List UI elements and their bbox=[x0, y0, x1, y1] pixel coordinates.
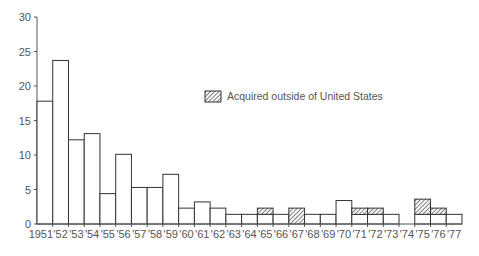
legend-label: Acquired outside of United States bbox=[227, 90, 383, 102]
y-tick-label: 15 bbox=[19, 115, 31, 127]
bars-group bbox=[37, 60, 462, 224]
bar-1963 bbox=[226, 214, 242, 224]
bar-us-segment bbox=[257, 214, 273, 224]
bar-1968 bbox=[305, 214, 321, 224]
bar-outside-us-segment bbox=[257, 208, 273, 214]
y-tick-label: 20 bbox=[19, 80, 31, 92]
bar-us-segment bbox=[320, 214, 336, 224]
x-tick-label: '54 bbox=[85, 228, 99, 240]
x-tick-label: '62 bbox=[211, 228, 225, 240]
bar-1964 bbox=[242, 214, 258, 224]
bar-1972 bbox=[368, 208, 384, 224]
bar-1960 bbox=[179, 208, 195, 224]
x-tick-label: '60 bbox=[179, 228, 193, 240]
bar-1956 bbox=[116, 154, 132, 224]
x-tick-label: '53 bbox=[69, 228, 83, 240]
bar-1957 bbox=[131, 187, 147, 224]
bar-1954 bbox=[84, 134, 100, 224]
bar-1969 bbox=[320, 214, 336, 224]
bar-1953 bbox=[68, 140, 84, 224]
bar-outside-us-segment bbox=[415, 199, 431, 214]
bar-us-segment bbox=[53, 60, 69, 224]
bar-1967 bbox=[289, 208, 305, 224]
x-axis: 1951'52'53'54'55'56'57'58'59'60'61'62'63… bbox=[29, 224, 462, 240]
x-tick-label: '52 bbox=[53, 228, 67, 240]
bar-us-segment bbox=[352, 214, 368, 224]
bar-1965 bbox=[257, 208, 273, 224]
bar-us-segment bbox=[68, 140, 84, 224]
legend-hatch-swatch-icon bbox=[205, 91, 221, 102]
y-tick-label: 5 bbox=[25, 184, 31, 196]
bar-us-segment bbox=[336, 201, 352, 224]
bar-us-segment bbox=[179, 208, 195, 224]
bar-1977 bbox=[446, 214, 462, 224]
bar-1970 bbox=[336, 201, 352, 224]
bar-1955 bbox=[100, 194, 116, 224]
x-tick-label: '69 bbox=[321, 228, 335, 240]
x-tick-label: '61 bbox=[195, 228, 209, 240]
x-tick-label: '58 bbox=[148, 228, 162, 240]
bar-1961 bbox=[194, 202, 210, 224]
bar-us-segment bbox=[383, 214, 399, 224]
bar-us-segment bbox=[226, 214, 242, 224]
x-tick-label: '67 bbox=[290, 228, 304, 240]
legend: Acquired outside of United States bbox=[205, 90, 383, 102]
x-tick-label: '57 bbox=[132, 228, 146, 240]
x-tick-label: '68 bbox=[305, 228, 319, 240]
bar-us-segment bbox=[131, 187, 147, 224]
bar-us-segment bbox=[446, 214, 462, 224]
x-tick-label: '59 bbox=[164, 228, 178, 240]
bar-us-segment bbox=[242, 214, 258, 224]
x-tick-label: '77 bbox=[447, 228, 461, 240]
bar-us-segment bbox=[415, 214, 431, 224]
bar-us-segment bbox=[431, 214, 447, 224]
bar-us-segment bbox=[305, 214, 321, 224]
bar-us-segment bbox=[210, 208, 226, 224]
x-tick-label: '66 bbox=[274, 228, 288, 240]
x-tick-label: '76 bbox=[431, 228, 445, 240]
bar-us-segment bbox=[273, 214, 289, 224]
x-tick-label: '70 bbox=[337, 228, 351, 240]
x-tick-label: '71 bbox=[352, 228, 366, 240]
y-tick-label: 25 bbox=[19, 46, 31, 58]
bar-us-segment bbox=[163, 174, 179, 224]
y-tick-label: 30 bbox=[19, 11, 31, 23]
bar-outside-us-segment bbox=[289, 208, 305, 224]
bar-outside-us-segment bbox=[431, 208, 447, 214]
x-tick-label: '55 bbox=[101, 228, 115, 240]
bar-us-segment bbox=[116, 154, 132, 224]
bar-us-segment bbox=[194, 202, 210, 224]
y-tick-label: 10 bbox=[19, 149, 31, 161]
x-tick-label: '65 bbox=[258, 228, 272, 240]
bar-1976 bbox=[431, 208, 447, 224]
bar-1959 bbox=[163, 174, 179, 224]
x-tick-label: '75 bbox=[415, 228, 429, 240]
bar-1975 bbox=[415, 199, 431, 224]
bar-us-segment bbox=[37, 101, 53, 224]
x-tick-label: '64 bbox=[242, 228, 256, 240]
bar-1966 bbox=[273, 214, 289, 224]
bar-1952 bbox=[53, 60, 69, 224]
x-tick-label: '72 bbox=[368, 228, 382, 240]
bar-us-segment bbox=[147, 187, 163, 224]
bar-us-segment bbox=[100, 194, 116, 224]
histogram-chart: 051015202530 1951'52'53'54'55'56'57'58'5… bbox=[0, 0, 479, 256]
x-tick-label: 1951 bbox=[29, 228, 53, 240]
bar-1971 bbox=[352, 208, 368, 224]
bar-outside-us-segment bbox=[368, 208, 384, 214]
x-tick-label: '73 bbox=[384, 228, 398, 240]
bar-outside-us-segment bbox=[352, 208, 368, 214]
bar-us-segment bbox=[368, 214, 384, 224]
y-axis: 051015202530 bbox=[19, 11, 37, 230]
x-tick-label: '56 bbox=[116, 228, 130, 240]
bar-1973 bbox=[383, 214, 399, 224]
x-tick-label: '74 bbox=[400, 228, 414, 240]
bar-1962 bbox=[210, 208, 226, 224]
x-tick-label: '63 bbox=[227, 228, 241, 240]
bar-1951 bbox=[37, 101, 53, 224]
bar-us-segment bbox=[84, 134, 100, 224]
bar-1958 bbox=[147, 187, 163, 224]
